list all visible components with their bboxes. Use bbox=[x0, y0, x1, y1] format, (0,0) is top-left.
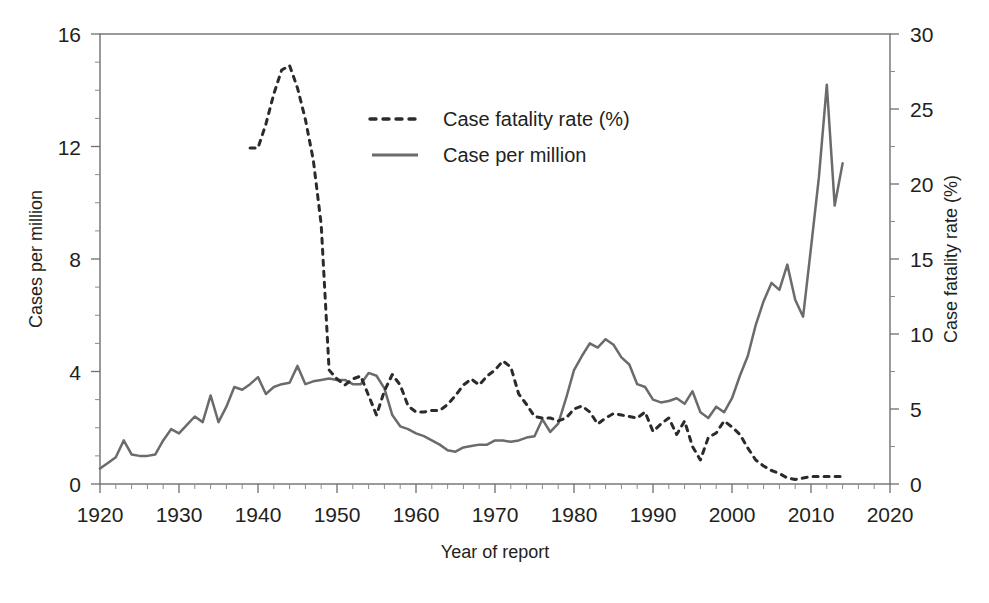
x-axis-tick-labels: 1920193019401950196019701980199020002010… bbox=[77, 503, 914, 526]
legend-label-case-fatality-rate: Case fatality rate (%) bbox=[443, 108, 630, 130]
y2-axis-ticks bbox=[890, 34, 899, 484]
y-tick-label: 4 bbox=[69, 361, 81, 384]
x-tick-label: 2010 bbox=[788, 503, 835, 526]
series-case-per-million bbox=[100, 85, 843, 469]
y2-tick-label: 0 bbox=[910, 473, 922, 496]
y2-tick-label: 5 bbox=[910, 398, 922, 421]
legend-label-case-per-million: Case per million bbox=[443, 144, 586, 166]
x-tick-label: 2000 bbox=[709, 503, 756, 526]
x-tick-label: 1970 bbox=[472, 503, 519, 526]
y-axis-ticks bbox=[91, 34, 100, 484]
x-axis-title: Year of report bbox=[441, 542, 549, 562]
chart-legend: Case fatality rate (%) Case per million bbox=[370, 108, 630, 166]
x-tick-label: 1980 bbox=[551, 503, 598, 526]
x-tick-label: 1990 bbox=[630, 503, 677, 526]
chart-figure: 1920193019401950196019701980199020002010… bbox=[0, 0, 989, 603]
y2-axis-tick-labels: 051015202530 bbox=[910, 23, 933, 496]
x-tick-label: 2020 bbox=[867, 503, 914, 526]
y-axis-title: Cases per million bbox=[26, 190, 46, 328]
line-chart: 1920193019401950196019701980199020002010… bbox=[0, 0, 989, 603]
x-tick-label: 1930 bbox=[156, 503, 203, 526]
y-tick-label: 16 bbox=[58, 23, 81, 46]
y2-tick-label: 25 bbox=[910, 98, 933, 121]
y2-axis-title: Case fatality rate (%) bbox=[941, 175, 961, 343]
legend-item-case-per-million: Case per million bbox=[372, 144, 586, 166]
legend-item-case-fatality-rate: Case fatality rate (%) bbox=[370, 108, 630, 130]
x-tick-label: 1940 bbox=[235, 503, 282, 526]
x-tick-label: 1920 bbox=[77, 503, 124, 526]
plot-frame bbox=[100, 34, 890, 484]
y-tick-label: 8 bbox=[69, 248, 81, 271]
y2-tick-label: 10 bbox=[910, 323, 933, 346]
y2-tick-label: 30 bbox=[910, 23, 933, 46]
x-tick-label: 1950 bbox=[314, 503, 361, 526]
y2-tick-label: 20 bbox=[910, 173, 933, 196]
x-axis-ticks bbox=[100, 484, 890, 493]
y-tick-label: 12 bbox=[58, 136, 81, 159]
y2-tick-label: 15 bbox=[910, 248, 933, 271]
y-tick-label: 0 bbox=[69, 473, 81, 496]
y-axis-tick-labels: 0481216 bbox=[58, 23, 82, 496]
x-tick-label: 1960 bbox=[393, 503, 440, 526]
